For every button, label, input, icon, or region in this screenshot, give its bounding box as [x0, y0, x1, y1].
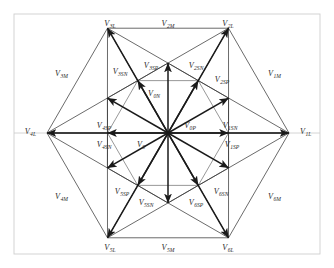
label-v6l: V6L	[222, 243, 233, 253]
space-vector-hexagon-diagram: V1LV2LV3LV4LV5LV6LV1MV2MV3MV4MV5MV6MV1SN…	[0, 0, 334, 268]
vector-v4m	[107, 133, 168, 168]
label-v1sn: V1SN	[223, 121, 238, 131]
label-v4sn: V4SN	[97, 140, 112, 150]
label-v2sn: V2SN	[189, 61, 204, 71]
label-v6sn: V6SN	[214, 187, 229, 197]
label-v2l: V2L	[222, 19, 233, 29]
label-v3l: V3L	[104, 19, 115, 29]
label-v5sn: V5SN	[139, 198, 154, 208]
figure-canvas: V1LV2LV3LV4LV5LV6LV1MV2MV3MV4MV5MV6MV1SN…	[0, 0, 334, 268]
label-v6m: V6M	[268, 192, 281, 202]
label-v4m: V4M	[55, 192, 68, 202]
label-v1l: V1L	[300, 127, 311, 137]
label-v3sp: V3SP	[144, 61, 159, 71]
vector-arrows	[47, 28, 289, 238]
label-v6sp: V6SP	[189, 198, 204, 208]
label-v0: V0	[137, 140, 145, 150]
vector-v6m	[168, 133, 229, 168]
vector-v1m	[168, 98, 229, 133]
label-v5l: V5L	[104, 243, 115, 253]
label-v5sp: V5SP	[115, 187, 130, 197]
label-v2m: V2M	[162, 19, 175, 29]
label-v3sn: V3SN	[113, 67, 128, 77]
label-v3m: V3M	[55, 69, 68, 79]
label-v4sp: V4SP	[97, 121, 112, 131]
label-v2sp: V2SP	[215, 75, 230, 85]
label-v5m: V5M	[162, 243, 175, 253]
label-v4l: V4L	[25, 127, 36, 137]
vector-v6sp	[168, 133, 198, 185]
label-v0p: V0P	[184, 121, 196, 131]
vector-v5sp	[138, 133, 168, 185]
label-v0n: V0N	[148, 89, 160, 99]
label-v1sp: V1SP	[225, 140, 240, 150]
vector-v3m	[107, 98, 168, 133]
label-v1m: V1M	[268, 69, 281, 79]
